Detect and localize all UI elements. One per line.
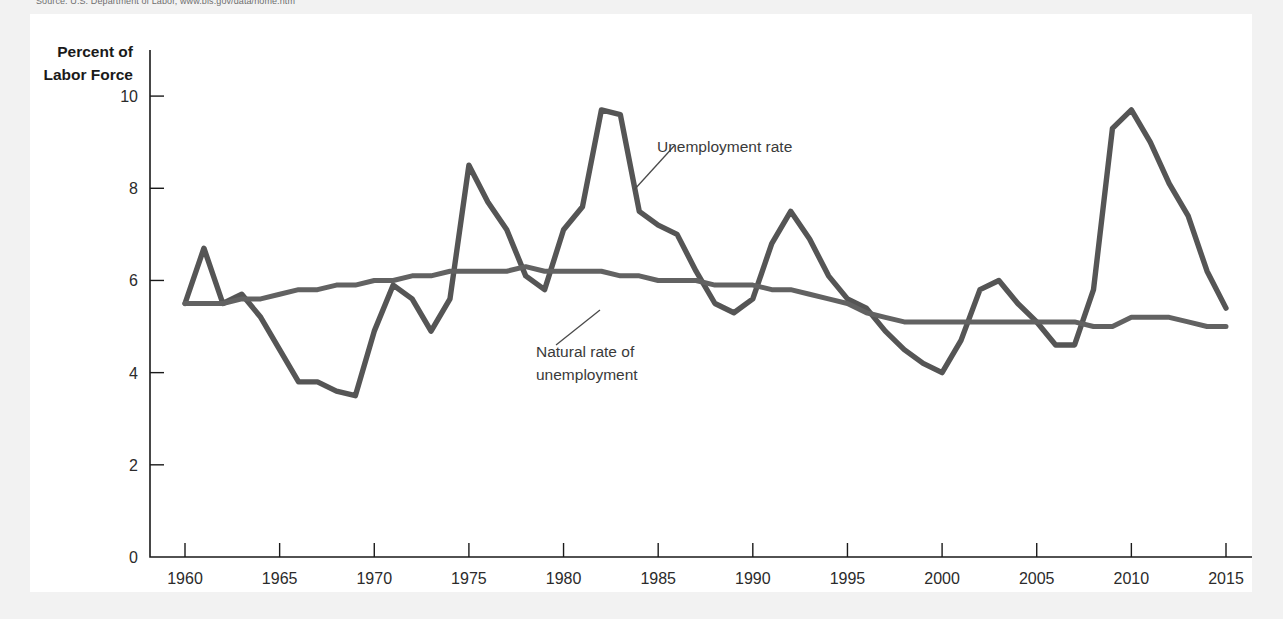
annotation-label: Unemployment rate [657,138,792,155]
figure-container: Source: U.S. Department of Labor, www.bl… [0,0,1283,619]
annotation-leader-line [556,310,600,345]
x-tick-label: 1995 [830,570,866,587]
x-tick-label: 1975 [451,570,487,587]
x-tick-label: 1980 [546,570,582,587]
x-tick-label: 1960 [167,570,203,587]
x-tick-marks [185,543,1226,557]
x-tick-label: 1985 [640,570,676,587]
annotation-unemployment-rate: Unemployment rate [634,138,792,190]
y-tick-label: 4 [129,365,138,382]
y-tick-label: 2 [129,457,138,474]
y-axis-title: Percent of Labor Force [43,43,133,83]
y-tick-labels: 0246810 [120,88,138,566]
x-tick-label: 2015 [1208,570,1244,587]
y-axis-title-line-1: Percent of [57,43,134,60]
chart-annotations: Unemployment rateNatural rate ofunemploy… [536,138,792,383]
annotation-natural-rate: Natural rate ofunemployment [536,310,638,383]
annotation-label: unemployment [536,366,638,383]
x-tick-label: 2000 [924,570,960,587]
series-line-natural-rate-of-unemployment [185,267,1226,327]
unemployment-rate-line-chart: 0246810 19601965197019751980198519901995… [0,0,1283,619]
y-tick-label: 10 [120,88,138,105]
y-tick-label: 8 [129,180,138,197]
x-tick-label: 1970 [356,570,392,587]
x-tick-label: 2010 [1114,570,1150,587]
y-tick-marks [150,96,164,465]
x-tick-label: 1990 [735,570,771,587]
annotation-label: Natural rate of [536,343,635,360]
x-tick-label: 1965 [262,570,298,587]
y-axis-title-line-2: Labor Force [43,66,133,83]
x-tick-labels: 1960196519701975198019851990199520002005… [167,570,1244,587]
y-tick-label: 0 [129,549,138,566]
y-tick-label: 6 [129,272,138,289]
x-tick-label: 2005 [1019,570,1055,587]
